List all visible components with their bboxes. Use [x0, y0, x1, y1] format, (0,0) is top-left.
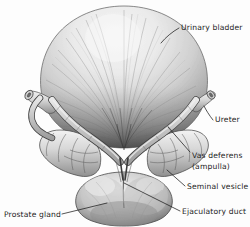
label-seminal-vesicle: Seminal vesicle [187, 182, 249, 191]
label-urinary-bladder: Urinary bladder [181, 23, 243, 32]
anatomy-illustration: Urinary bladder Ureter Vas deferens (amp… [0, 0, 250, 227]
label-ejaculatory-duct: Ejaculatory duct [182, 207, 246, 216]
label-prostate-gland: Prostate gland [4, 210, 61, 219]
label-vas-deferens: Vas deferens [192, 151, 243, 160]
leader-ureter [204, 106, 213, 120]
anatomy-figure: Urinary bladder Ureter Vas deferens (amp… [0, 0, 250, 227]
label-vas-deferens-ampulla: (ampulla) [192, 162, 230, 171]
bladder-highlight [85, 14, 141, 62]
label-ureter: Ureter [215, 115, 241, 124]
